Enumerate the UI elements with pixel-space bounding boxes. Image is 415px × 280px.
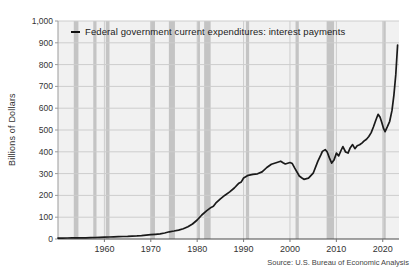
x-tick-label: 1960 [94,244,114,254]
y-tick-label: 600 [39,103,53,113]
y-axis-title: Billions of Dollars [6,21,18,239]
y-tick-label: 300 [39,169,53,179]
y-tick-label: 800 [39,60,53,70]
y-tick-label: 1,000 [32,16,54,26]
y-tick-label: 200 [39,190,53,200]
y-tick-label: 0 [48,234,53,244]
x-tick-label: 1990 [234,244,254,254]
y-tick-label: 500 [39,125,53,135]
y-tick-label: 900 [39,38,53,48]
y-tick-label: 100 [39,212,53,222]
x-tick-label: 1970 [141,244,161,254]
y-tick-label: 400 [39,147,53,157]
y-tick-label: 700 [39,81,53,91]
source-note: Source: U.S. Bureau of Economic Analysis [267,258,409,267]
legend-line-swatch [71,31,80,33]
x-tick-label: 2020 [373,244,393,254]
legend-label: Federal government current expenditures:… [85,26,345,37]
chart-legend: Federal government current expenditures:… [71,26,345,37]
x-tick-label: 2000 [280,244,300,254]
chart-svg: 01002003004005006007008009001,0001960197… [0,0,415,280]
x-tick-label: 2010 [326,244,346,254]
x-tick-label: 1980 [187,244,207,254]
chart-container: 01002003004005006007008009001,0001960197… [0,0,415,280]
